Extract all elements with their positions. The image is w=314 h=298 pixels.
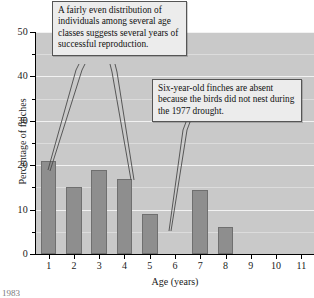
y-tick-label-50: 50 — [2, 27, 28, 37]
x-tick-label-3: 3 — [89, 260, 109, 271]
x-tick-10 — [276, 255, 277, 259]
x-tick-label-11: 11 — [291, 260, 311, 271]
plot-area — [36, 32, 314, 254]
x-tick-label-1: 1 — [39, 260, 59, 271]
y-tick-major — [30, 32, 35, 33]
y-tick-minor — [32, 143, 35, 144]
x-tick-8 — [226, 255, 227, 259]
y-tick-minor — [32, 99, 35, 100]
y-tick-minor — [32, 232, 35, 233]
gridline-major — [36, 76, 314, 77]
gridline-major — [36, 165, 314, 166]
x-tick-label-4: 4 — [114, 260, 134, 271]
gridline-minor — [36, 143, 314, 144]
bar-age-8 — [218, 227, 234, 254]
bar-age-3 — [91, 170, 107, 254]
x-tick-5 — [150, 255, 151, 259]
bar-age-2 — [66, 187, 82, 254]
x-tick-4 — [124, 255, 125, 259]
y-tick-major — [30, 210, 35, 211]
x-tick-label-8: 8 — [216, 260, 236, 271]
y-axis-title: Percentage of finches — [17, 67, 28, 217]
x-tick-11 — [301, 255, 302, 259]
x-tick-label-5: 5 — [140, 260, 160, 271]
x-tick-9 — [251, 255, 252, 259]
x-tick-label-9: 9 — [241, 260, 261, 271]
x-tick-1 — [49, 255, 50, 259]
figure-footnote: 1983 — [2, 288, 20, 298]
bar-age-7 — [192, 190, 208, 254]
bar-age-4 — [117, 179, 133, 254]
x-tick-2 — [74, 255, 75, 259]
x-tick-label-2: 2 — [64, 260, 84, 271]
x-axis-title: Age (years) — [36, 276, 314, 287]
x-tick-3 — [99, 255, 100, 259]
y-tick-major — [30, 76, 35, 77]
y-tick-minor — [32, 187, 35, 188]
x-tick-label-10: 10 — [266, 260, 286, 271]
y-tick-minor — [32, 54, 35, 55]
finch-age-distribution-figure: 01020304050 1234567891011 Age (years) Pe… — [0, 0, 314, 298]
y-axis-line — [35, 32, 36, 255]
x-tick-label-7: 7 — [190, 260, 210, 271]
y-tick-major — [30, 254, 35, 255]
y-tick-label-0: 0 — [2, 249, 28, 259]
y-tick-major — [30, 165, 35, 166]
x-tick-label-6: 6 — [165, 260, 185, 271]
bar-age-5 — [142, 214, 158, 254]
x-tick-7 — [200, 255, 201, 259]
x-tick-6 — [175, 255, 176, 259]
callout-reproduction: A fairly even distribution of individual… — [52, 1, 187, 56]
bar-age-1 — [41, 161, 57, 254]
callout-drought: Six-year-old finches are absent because … — [152, 79, 302, 122]
y-tick-major — [30, 121, 35, 122]
